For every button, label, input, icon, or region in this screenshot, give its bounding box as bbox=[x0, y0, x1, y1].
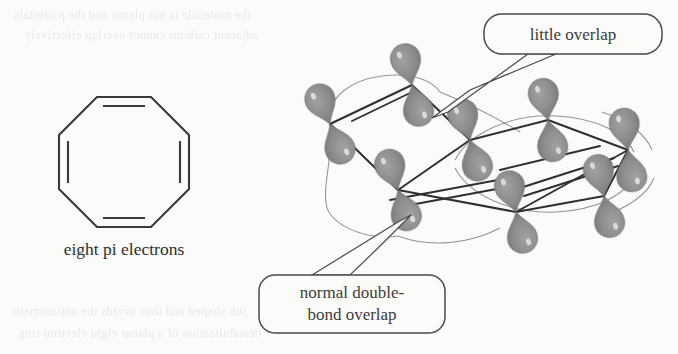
eight-pi-electrons-label: eight pi electrons bbox=[64, 239, 185, 259]
octagon-ring bbox=[59, 97, 189, 227]
callout-normal-double-bond-overlap[interactable]: normal double- bond overlap bbox=[259, 215, 445, 333]
callout-label-normal-double-bond-line1: normal double- bbox=[300, 283, 405, 302]
p-orbital-lobes bbox=[300, 41, 648, 257]
callout-label-little-overlap: little overlap bbox=[530, 25, 616, 44]
callout-label-normal-double-bond-line2: bond overlap bbox=[307, 305, 396, 324]
diagram-svg: eight pi electrons bbox=[0, 0, 678, 354]
figure-canvas: the molecule is not planar and the p orb… bbox=[0, 0, 678, 354]
cyclooctatetraene-octagon bbox=[59, 97, 189, 227]
orbital-model-group bbox=[300, 41, 654, 257]
callout-tail-normal-double-bond bbox=[312, 215, 411, 275]
